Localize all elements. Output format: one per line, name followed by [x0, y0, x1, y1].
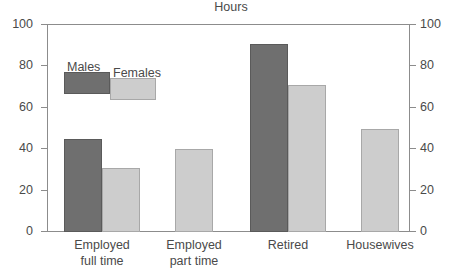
y-axis-label-right-100: 100 — [420, 18, 454, 31]
y-axis-label-left-80: 80 — [3, 59, 33, 72]
y-axis-label-right-20: 20 — [420, 184, 454, 197]
y-tick-right-80 — [410, 65, 416, 66]
y-axis-label-right-0: 0 — [420, 225, 454, 238]
y-tick-left-20 — [41, 190, 47, 191]
bar-males-2 — [250, 44, 288, 232]
bar-females-2 — [288, 85, 326, 232]
y-tick-right-40 — [410, 148, 416, 149]
legend-label-females: Females — [113, 66, 161, 80]
y-tick-left-60 — [41, 107, 47, 108]
plot-area — [47, 24, 410, 232]
legend-swatch-males — [64, 72, 110, 94]
y-tick-left-0 — [41, 231, 47, 232]
legend-swatch-females — [110, 78, 156, 100]
y-tick-right-0 — [410, 231, 416, 232]
bar-chart: Hours 100806040200 100806040200 Employed… — [0, 0, 462, 275]
x-axis-label-3: Housewives — [325, 238, 435, 254]
y-tick-right-60 — [410, 107, 416, 108]
y-axis-label-left-0: 0 — [3, 225, 33, 238]
y-tick-right-20 — [410, 190, 416, 191]
bar-females-1 — [175, 149, 213, 232]
y-axis-label-right-40: 40 — [420, 142, 454, 155]
y-axis-label-left-60: 60 — [3, 101, 33, 114]
y-axis-label-left-20: 20 — [3, 184, 33, 197]
bar-females-0 — [102, 168, 140, 232]
chart-title: Hours — [0, 0, 462, 14]
y-axis-label-left-100: 100 — [3, 18, 33, 31]
axis-line-top — [47, 24, 410, 25]
y-axis-label-right-80: 80 — [420, 59, 454, 72]
bar-males-0 — [64, 139, 102, 232]
y-tick-right-100 — [410, 24, 416, 25]
legend-label-males: Males — [67, 60, 100, 74]
axis-line-left — [47, 24, 48, 232]
axis-line-right — [409, 24, 410, 232]
y-tick-left-100 — [41, 24, 47, 25]
y-tick-left-40 — [41, 148, 47, 149]
y-axis-label-left-40: 40 — [3, 142, 33, 155]
y-axis-label-right-60: 60 — [420, 101, 454, 114]
bar-females-3 — [361, 129, 399, 233]
y-tick-left-80 — [41, 65, 47, 66]
